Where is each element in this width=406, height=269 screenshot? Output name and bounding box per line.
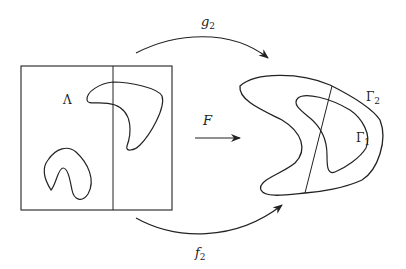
gamma2-label: Γ2 <box>366 90 380 106</box>
arch-region-curve <box>44 148 91 199</box>
f2-label: f2 <box>194 245 206 262</box>
g2-arrow <box>136 37 268 58</box>
g2-label: g2 <box>201 14 215 31</box>
gamma1-label: Γ1 <box>356 131 370 147</box>
diagram-canvas: Λ g2 F f2 Γ2 Γ1 <box>0 0 406 269</box>
lambda-region-curve <box>87 82 163 150</box>
F-label: F <box>202 113 213 128</box>
image-divider <box>305 86 332 193</box>
f2-arrow <box>136 205 282 234</box>
lambda-label: Λ <box>62 93 72 107</box>
